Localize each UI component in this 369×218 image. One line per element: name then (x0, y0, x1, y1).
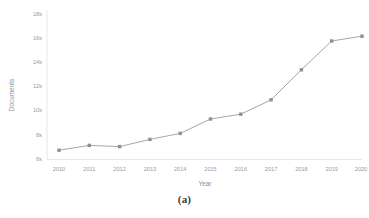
x-tick-label: 2012 (113, 166, 125, 172)
data-point-marker (88, 144, 91, 147)
data-point-marker (269, 98, 272, 101)
y-tick-label: 12k (33, 83, 42, 89)
y-axis-title: Documents (8, 79, 15, 111)
x-tick-label: 2019 (325, 166, 337, 172)
line-chart: Documents 18k 16k 14k 12k 10k 8k 6k (0, 0, 369, 190)
data-point-marker (330, 39, 333, 42)
data-point-marker (300, 68, 303, 71)
x-tick-label: 2015 (204, 166, 216, 172)
x-tick-label: 2016 (235, 166, 247, 172)
y-tick-label: 8k (36, 132, 42, 138)
data-point-marker (179, 132, 182, 135)
y-tick-label: 10k (33, 107, 42, 113)
x-tick-label: 2018 (295, 166, 307, 172)
x-axis-title: Year (199, 180, 213, 187)
data-point-marker (360, 35, 363, 38)
data-point-marker (148, 138, 151, 141)
x-tick-label: 2020 (355, 166, 367, 172)
data-point-marker (239, 113, 242, 116)
figure-caption: (a) (0, 193, 369, 205)
documents-line-series (59, 36, 362, 150)
x-tick-label: 2017 (265, 166, 277, 172)
data-point-marker (57, 149, 60, 152)
x-tick-label: 2010 (53, 166, 65, 172)
x-tick-label: 2011 (83, 166, 95, 172)
figure-panel: Documents 18k 16k 14k 12k 10k 8k 6k (0, 0, 369, 218)
y-tick-label: 18k (33, 11, 42, 17)
x-tick-label: 2014 (174, 166, 186, 172)
data-point-marker (118, 145, 121, 148)
chart-plot-area: Documents 18k 16k 14k 12k 10k 8k 6k (0, 0, 369, 190)
x-tick-label: 2013 (144, 166, 156, 172)
data-point-marker (209, 117, 212, 120)
y-tick-label: 6k (36, 156, 42, 162)
y-tick-label: 16k (33, 35, 42, 41)
y-tick-label: 14k (33, 59, 42, 65)
